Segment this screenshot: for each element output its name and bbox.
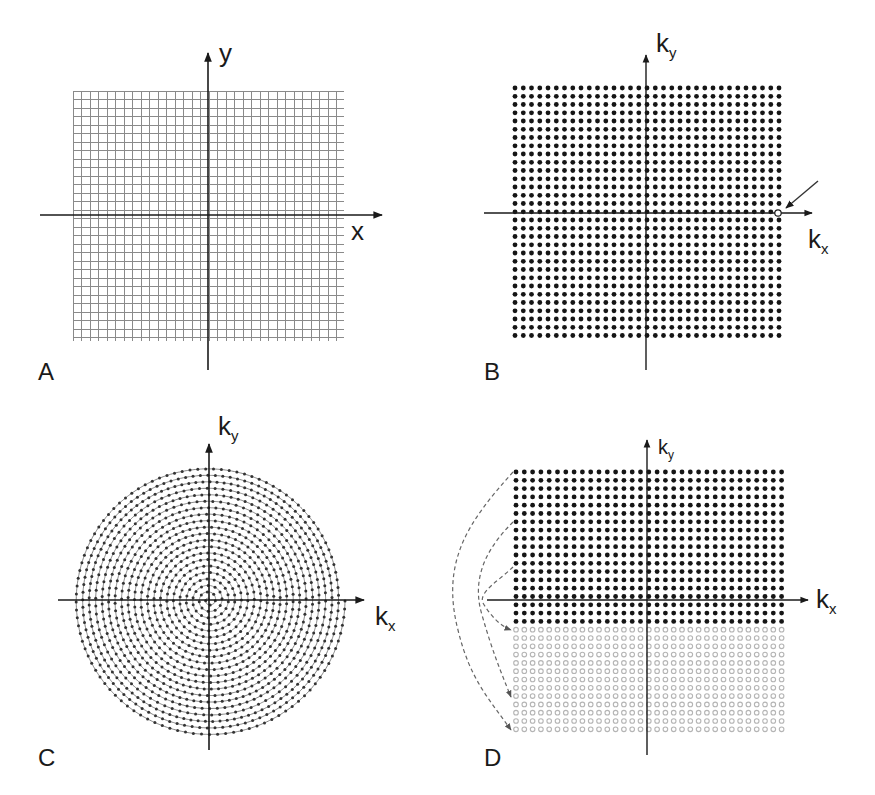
- panel-letter-b: B: [484, 358, 500, 385]
- k-space-figure: x y A kx ky B kx ky C kx ky D: [0, 0, 875, 795]
- ky-axis-label: ky: [218, 411, 239, 444]
- cartesian-sample-dots: [513, 86, 782, 338]
- highlighted-sample-point: [775, 210, 781, 216]
- conjugate-symmetry-arrows: [453, 472, 513, 730]
- panel-d: kx ky D: [453, 436, 837, 771]
- pointer-arrow-icon: [786, 181, 818, 208]
- kx-axis-label: kx: [375, 601, 396, 634]
- spiral-trajectory: [75, 467, 347, 736]
- ky-axis-label: ky: [658, 436, 674, 462]
- panel-letter-d: D: [484, 744, 501, 771]
- y-axis-label: y: [219, 38, 232, 68]
- ky-axis-label: ky: [656, 28, 677, 61]
- panel-b: kx ky B: [484, 28, 829, 385]
- kx-axis-label: kx: [808, 224, 829, 257]
- x-axis-label: x: [351, 216, 364, 246]
- panel-a: x y A: [38, 38, 382, 385]
- panel-letter-a: A: [38, 358, 54, 385]
- kx-axis-label: kx: [816, 584, 837, 617]
- panel-c: kx ky C: [38, 411, 396, 771]
- panel-letter-c: C: [38, 744, 55, 771]
